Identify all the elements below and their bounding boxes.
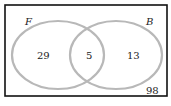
f-only-count: 29 bbox=[37, 50, 50, 61]
outside-count: 98 bbox=[146, 85, 159, 96]
set-f-label: F bbox=[24, 16, 33, 27]
venn-diagram: F B 29 5 13 98 bbox=[0, 0, 171, 106]
b-only-count: 13 bbox=[127, 50, 140, 61]
intersection-count: 5 bbox=[86, 50, 92, 61]
set-b-label: B bbox=[145, 16, 153, 27]
